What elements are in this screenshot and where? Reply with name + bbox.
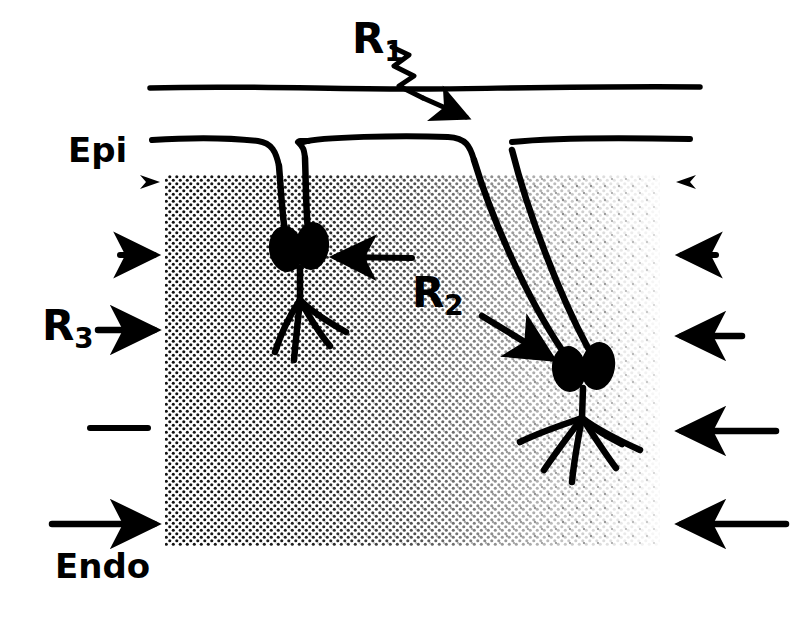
- epicardial-surface-line: [152, 136, 690, 166]
- region-1-label-subscript: 1: [384, 35, 403, 68]
- right-marker-arrowhead: [676, 175, 696, 189]
- outer-surface-line: [150, 87, 700, 89]
- region-3-label-subscript: 3: [74, 322, 93, 355]
- right-marker-column: [676, 175, 786, 524]
- left-marker-arrowhead: [140, 175, 160, 189]
- myocardial-wall-figure: R1 R2 R3 Epi Endo: [0, 0, 804, 629]
- region-1-label: R1: [352, 18, 404, 66]
- epicardium-label: Epi: [68, 133, 127, 167]
- endocardium-label: Endo: [55, 549, 150, 583]
- left-cell-pointer: [336, 257, 412, 258]
- region-3-label-base: R: [42, 301, 74, 350]
- region-2-label-subscript: 2: [444, 289, 463, 322]
- region-1-label-base: R: [352, 14, 384, 63]
- region-2-label: R2: [412, 272, 464, 320]
- region-2-label-base: R: [412, 268, 444, 317]
- figure-canvas: [0, 0, 804, 629]
- region-3-label: R3: [42, 305, 94, 353]
